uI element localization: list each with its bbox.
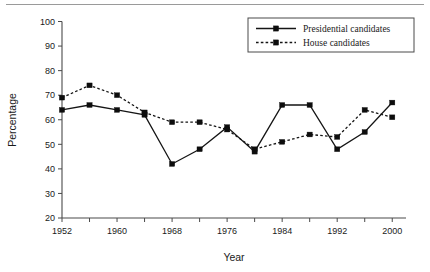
data-point-marker — [142, 110, 147, 115]
y-axis-title: Percentage — [6, 93, 18, 147]
data-point-marker — [87, 83, 92, 88]
data-point-marker — [390, 100, 395, 105]
data-point-marker — [335, 147, 340, 152]
legend-sample-marker-1 — [273, 40, 278, 45]
y-axis-tick-group: 2030405060708090100 — [40, 17, 62, 224]
y-tick-label: 30 — [45, 189, 55, 199]
y-tick-label: 20 — [45, 213, 55, 223]
x-tick-label: 1976 — [217, 226, 237, 236]
data-point-marker — [307, 132, 312, 137]
x-tick-label: 1984 — [272, 226, 292, 236]
data-point-marker — [59, 95, 64, 100]
data-point-marker — [114, 93, 119, 98]
data-point-marker — [335, 135, 340, 140]
legend-label-0: Presidential candidates — [303, 24, 391, 34]
data-point-marker — [225, 127, 230, 132]
y-tick-label: 50 — [45, 140, 55, 150]
data-point-marker — [59, 108, 64, 113]
data-point-marker — [280, 103, 285, 108]
data-point-marker — [280, 139, 285, 144]
x-tick-label: 1992 — [327, 226, 347, 236]
x-tick-label: 1968 — [162, 226, 182, 236]
y-tick-label: 40 — [45, 164, 55, 174]
y-tick-label: 100 — [40, 17, 55, 27]
x-axis-tick-group: 1952196019681976198419922000 — [52, 218, 402, 236]
y-tick-label: 60 — [45, 115, 55, 125]
data-point-marker — [87, 103, 92, 108]
x-tick-label: 1952 — [52, 226, 72, 236]
chart-legend: Presidential candidatesHouse candidates — [248, 18, 414, 52]
y-tick-label: 70 — [45, 90, 55, 100]
legend-label-1: House candidates — [303, 38, 370, 48]
series-line-1 — [62, 85, 392, 149]
data-point-marker — [114, 108, 119, 113]
x-tick-label: 1960 — [107, 226, 127, 236]
data-point-marker — [197, 147, 202, 152]
data-point-marker — [252, 147, 257, 152]
x-axis-title: Year — [223, 251, 245, 263]
line-chart-plot: 2030405060708090100 19521960196819761984… — [0, 0, 430, 272]
data-point-marker — [390, 115, 395, 120]
data-point-marker — [362, 130, 367, 135]
series-line-0 — [62, 103, 392, 164]
y-tick-label: 90 — [45, 41, 55, 51]
data-point-marker — [169, 162, 174, 167]
chart-figure: 2030405060708090100 19521960196819761984… — [0, 0, 430, 272]
legend-sample-marker-0 — [273, 26, 278, 31]
data-series-layer — [59, 83, 394, 166]
y-tick-label: 80 — [45, 66, 55, 76]
data-point-marker — [362, 108, 367, 113]
data-point-marker — [197, 120, 202, 125]
x-tick-label: 2000 — [382, 226, 402, 236]
data-point-marker — [307, 103, 312, 108]
data-point-marker — [169, 120, 174, 125]
